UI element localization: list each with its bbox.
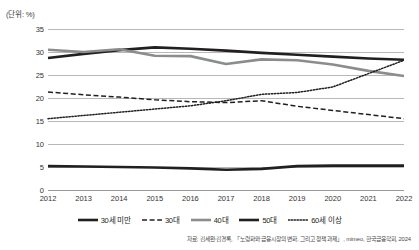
- x-tick-label: 2013: [75, 194, 92, 203]
- legend-item: 50대: [239, 214, 277, 225]
- legend-item: 30세 미만: [78, 214, 131, 225]
- y-tick-label: 0: [4, 186, 44, 195]
- y-tick-label: 15: [4, 117, 44, 126]
- chart-legend: 30세 미만30대40대50대60세 이상: [0, 214, 419, 225]
- series-lines: [48, 29, 404, 190]
- x-axis: 2012201320142015201620172018201920202021…: [48, 194, 404, 208]
- legend-swatch: [191, 216, 211, 224]
- legend-label: 40대: [214, 214, 229, 225]
- series-line: [48, 60, 404, 118]
- x-tick-label: 2019: [289, 194, 306, 203]
- y-tick-label: 35: [4, 25, 44, 34]
- legend-swatch: [78, 216, 98, 224]
- legend-item: 60세 이상: [288, 214, 341, 225]
- plot-area: [48, 29, 404, 190]
- legend-label: 30대: [165, 214, 180, 225]
- gridline-0: [48, 190, 404, 191]
- legend-label: 50대: [262, 214, 277, 225]
- series-line: [48, 92, 404, 119]
- series-line: [48, 166, 404, 170]
- unit-label: (단위: %): [6, 8, 34, 19]
- y-tick-label: 30: [4, 48, 44, 57]
- legend-swatch: [239, 216, 259, 224]
- x-tick-label: 2016: [182, 194, 199, 203]
- x-tick-label: 2021: [360, 194, 377, 203]
- legend-swatch: [288, 216, 308, 224]
- x-tick-label: 2015: [146, 194, 163, 203]
- age-distribution-line-chart: (단위: %) 05101520253035 20122013201420152…: [0, 0, 419, 250]
- legend-label: 30세 미만: [101, 214, 131, 225]
- legend-swatch: [142, 216, 162, 224]
- y-tick-label: 10: [4, 140, 44, 149]
- x-tick-label: 2012: [40, 194, 57, 203]
- y-tick-label: 25: [4, 71, 44, 80]
- x-tick-label: 2020: [324, 194, 341, 203]
- x-tick-label: 2018: [253, 194, 270, 203]
- legend-item: 30대: [142, 214, 180, 225]
- legend-label: 60세 이상: [311, 214, 341, 225]
- legend-item: 40대: [191, 214, 229, 225]
- x-tick-label: 2017: [218, 194, 235, 203]
- y-axis: 05101520253035: [0, 29, 44, 190]
- y-tick-label: 20: [4, 94, 44, 103]
- x-tick-label: 2022: [396, 194, 413, 203]
- x-tick-label: 2014: [111, 194, 128, 203]
- y-tick-label: 5: [4, 163, 44, 172]
- source-note: 자료: 김세완·김경록, 「노령화와 금융시장의 변화, 그리고 정책 과제」,…: [187, 234, 411, 243]
- series-line: [48, 47, 404, 59]
